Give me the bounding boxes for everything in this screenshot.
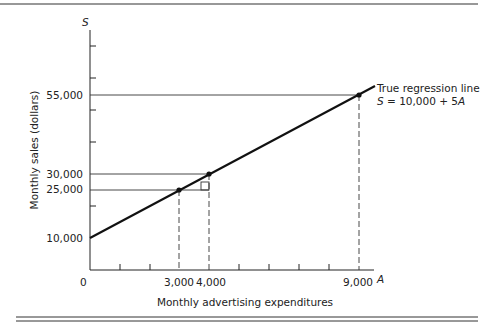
- x-ticks: [120, 264, 329, 270]
- horizontal-guides: [90, 95, 359, 190]
- y-axis-title: Monthly sales (dollars): [28, 91, 40, 210]
- point-3000: [176, 187, 181, 192]
- x-label-4000: 4,000: [196, 276, 226, 288]
- x-axis-symbol: A: [376, 273, 384, 285]
- x-label-9000: 9,000: [343, 276, 373, 288]
- right-angle-marker: [201, 182, 209, 190]
- regression-line-label: True regression line: [376, 82, 480, 94]
- x-label-3000: 3,000: [164, 276, 194, 288]
- y-axis-symbol: S: [82, 16, 89, 28]
- y-label-25000: 25,000: [46, 183, 83, 195]
- origin-label: 0: [80, 276, 87, 288]
- vertical-dashed-guides: [179, 95, 359, 270]
- point-9000: [356, 92, 361, 97]
- x-axis-title: Monthly advertising expenditures: [157, 296, 333, 308]
- y-label-10000: 10,000: [46, 232, 83, 244]
- point-4000: [206, 171, 211, 176]
- y-label-30000: 30,000: [46, 168, 83, 180]
- regression-line: [90, 86, 375, 238]
- regression-chart: S A 55,000 30,000 25,000 10,000 0 3,000 …: [0, 0, 489, 333]
- y-ticks: [90, 46, 96, 206]
- y-label-55000: 55,000: [46, 89, 83, 101]
- regression-equation: S = 10,000 + 5A: [377, 95, 465, 107]
